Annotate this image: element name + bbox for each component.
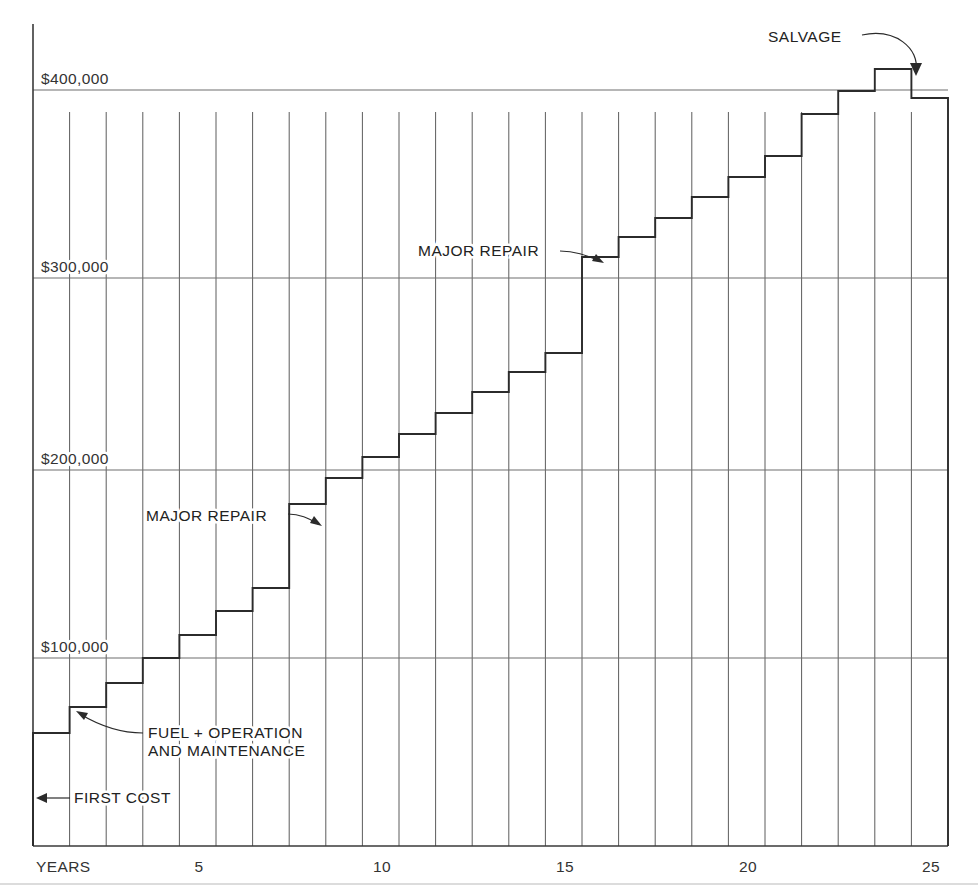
y-label-100k: $100,000 bbox=[41, 638, 109, 655]
annotation-first-cost: FIRST COST bbox=[36, 789, 171, 806]
horizontal-gridlines bbox=[33, 90, 948, 658]
x-label-25: 25 bbox=[922, 858, 940, 875]
x-axis-title: YEARS bbox=[36, 858, 91, 875]
annotation-major-repair-lower: MAJOR REPAIR bbox=[146, 507, 322, 526]
annotation-fuel-om: FUEL + OPERATION AND MAINTENANCE bbox=[76, 711, 305, 759]
x-label-5: 5 bbox=[194, 858, 203, 875]
x-label-20: 20 bbox=[739, 858, 757, 875]
x-label-10: 10 bbox=[373, 858, 391, 875]
major-repair-upper-label: MAJOR REPAIR bbox=[418, 242, 539, 259]
fuel-om-label-line1: FUEL + OPERATION bbox=[148, 724, 303, 741]
y-label-400k: $400,000 bbox=[41, 70, 109, 87]
salvage-label: SALVAGE bbox=[768, 28, 842, 45]
y-axis-labels: $400,000 $300,000 $200,000 $100,000 bbox=[41, 70, 109, 655]
life-cycle-cost-chart: $400,000 $300,000 $200,000 $100,000 YEAR… bbox=[0, 0, 978, 887]
y-label-300k: $300,000 bbox=[41, 258, 109, 275]
fuel-om-label-line2: AND MAINTENANCE bbox=[148, 742, 305, 759]
x-axis-labels: YEARS 5 10 15 20 25 bbox=[36, 858, 940, 875]
axes bbox=[33, 24, 948, 846]
chart-page: $400,000 $300,000 $200,000 $100,000 YEAR… bbox=[0, 0, 978, 887]
first-cost-label: FIRST COST bbox=[74, 789, 171, 806]
y-label-200k: $200,000 bbox=[41, 450, 109, 467]
annotation-major-repair-upper: MAJOR REPAIR bbox=[418, 242, 604, 263]
major-repair-lower-label: MAJOR REPAIR bbox=[146, 507, 267, 524]
x-label-15: 15 bbox=[556, 858, 574, 875]
